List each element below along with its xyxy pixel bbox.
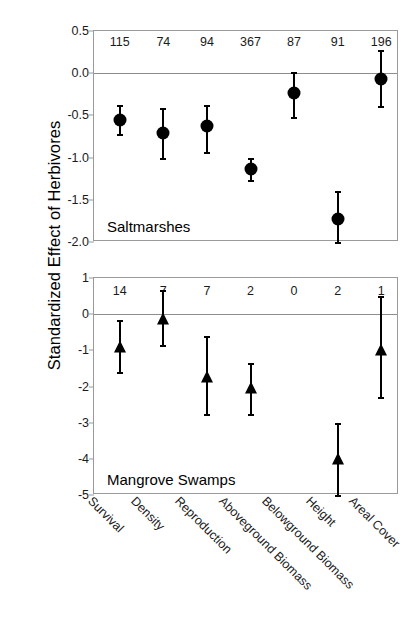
y-tick-label: -0.5 [67,108,89,122]
zero-reference-line [94,73,397,74]
y-tick-label: 1 [82,271,89,285]
y-tick-label: -4 [78,452,89,466]
error-bar-cap [160,108,166,110]
error-bar-cap [378,106,384,108]
error-bar-cap [204,105,210,107]
error-bar-cap [291,117,297,119]
error-bar-cap [291,72,297,74]
error-bar-cap [204,414,210,416]
y-tick-mark [89,422,94,423]
figure-container: Standardized Effect of Herbivores 0.50.0… [0,0,419,629]
y-tick-label: -3 [78,416,89,430]
sample-size-label: 367 [240,35,261,49]
y-tick-label: -1.0 [67,151,89,165]
error-bar-cap [378,397,384,399]
error-bar-cap [204,336,210,338]
data-point-marker [288,87,301,100]
panel-caption-saltmarshes: Saltmarshes [107,218,190,235]
y-tick-mark [89,278,94,279]
x-axis-label: Height [303,494,338,529]
error-bar-cap [335,423,341,425]
y-tick-mark [89,115,94,116]
error-bar-cap [117,105,123,107]
error-bar-cap [117,372,123,374]
data-point-marker [157,312,169,324]
y-tick-mark [89,350,94,351]
sample-size-label: 14 [113,284,127,298]
x-axis-label: Survival [85,494,126,535]
sample-size-label: 2 [334,284,341,298]
y-tick-label: -1 [78,343,89,357]
plot-area-mangrove-swamps: 10-1-2-3-4-514772021 [94,278,397,493]
data-point-marker [113,113,126,126]
y-tick-label: 0.5 [72,24,89,38]
error-bar-cap [248,158,254,160]
sample-size-label: 196 [371,35,392,49]
error-bar-cap [335,242,341,244]
y-tick-label: -1.5 [67,193,89,207]
sample-size-label: 2 [247,284,254,298]
error-bar-cap [204,152,210,154]
y-tick-mark [89,157,94,158]
panel-saltmarshes: 0.50.0-0.5-1.0-1.5-2.011574943678791196 … [93,30,398,241]
error-bar-cap [160,158,166,160]
error-bar-cap [160,345,166,347]
plot-area-saltmarshes: 0.50.0-0.5-1.0-1.5-2.011574943678791196 [94,31,397,240]
sample-size-label: 94 [200,35,214,49]
sample-size-label: 74 [156,35,170,49]
y-tick-mark [89,386,94,387]
y-tick-mark [89,199,94,200]
data-point-marker [244,162,257,175]
sample-size-label: 0 [291,284,298,298]
error-bar-cap [248,414,254,416]
error-bar-cap [248,363,254,365]
data-point-marker [332,452,344,464]
y-tick-label: 0.0 [72,66,89,80]
error-bar-cap [117,134,123,136]
data-point-marker [114,340,126,352]
error-bar-cap [117,320,123,322]
error-bar-cap [160,290,166,292]
error-bar-cap [335,191,341,193]
sample-size-label: 91 [331,35,345,49]
data-point-marker [157,127,170,140]
error-bar-cap [248,180,254,182]
data-point-marker [375,344,387,356]
data-point-marker [201,371,213,383]
sample-size-label: 7 [203,284,210,298]
error-bar-cap [378,50,384,52]
data-point-marker [200,120,213,133]
y-axis-title: Standardized Effect of Herbivores [45,46,64,446]
x-axis-label: Areal Cover [346,494,403,551]
y-tick-mark [89,458,94,459]
x-axis-labels: SurvivalDensityReproductionAboveground B… [93,494,398,629]
y-tick-mark [89,242,94,243]
data-point-marker [375,73,388,86]
sample-size-label: 87 [287,35,301,49]
zero-reference-line [94,314,397,315]
data-point-marker [245,382,257,394]
sample-size-label: 115 [110,35,130,49]
data-point-marker [331,213,344,226]
panel-mangrove-swamps: 10-1-2-3-4-514772021 Mangrove Swamps [93,277,398,494]
y-tick-mark [89,31,94,32]
y-tick-label: 0 [82,307,89,321]
panel-caption-mangrove-swamps: Mangrove Swamps [107,471,235,488]
x-axis-label: Density [128,494,167,533]
error-bar-cap [378,296,384,298]
y-tick-label: -2 [78,380,89,394]
y-tick-label: -2.0 [67,235,89,249]
